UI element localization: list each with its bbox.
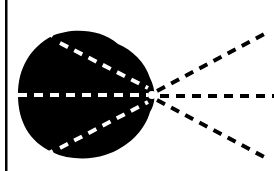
field-of-view-diagram (0, 0, 274, 171)
outer-dashed-rays (157, 32, 274, 158)
left-frame-line (5, 0, 8, 171)
origin-point (148, 91, 156, 99)
outer-ray-upper (157, 32, 268, 91)
outer-ray-lower (157, 100, 266, 158)
